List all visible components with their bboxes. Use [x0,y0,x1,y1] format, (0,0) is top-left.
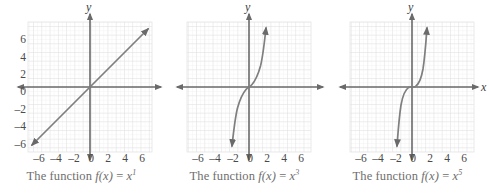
x-tick-label: –6 [355,153,367,165]
caption-fx: f(x) [95,169,113,183]
y-axis-letter-x3: y [245,0,250,15]
x-tick-label: 4 [122,153,128,165]
x-tick-label: –2 [390,153,402,165]
caption-x1: The function f(x) = x1 [0,168,163,184]
x-tick-labels-x5: –6 –4 –2 0 2 4 6 [326,153,489,169]
caption-fx: f(x) [421,169,439,183]
x-tick-label: 2 [427,153,433,165]
caption-eq: = [113,169,127,183]
x-tick-label: 2 [105,153,111,165]
y-tick-labels-x1: 6 4 2 0 –2 –4 –6 [2,22,26,152]
x-tick-label: 2 [264,153,270,165]
caption-prefix: The function [190,169,259,183]
x-tick-label: 0 [247,153,253,165]
x-tick-label: 0 [410,153,416,165]
y-tick-label: –6 [15,139,27,151]
x-tick-label: –6 [192,153,204,165]
x-tick-label: 6 [461,153,467,165]
y-tick-label: –4 [15,121,27,133]
caption-exponent: 5 [458,168,462,177]
caption-eq: = [439,169,453,183]
plot-svg-x5 [326,0,489,170]
plot-area-x3: –6 –4 –2 0 2 4 6 y [163,0,326,170]
caption-x3: The function f(x) = x3 [163,168,326,184]
graph-panel-x3: –6 –4 –2 0 2 4 6 y The function f(x) = x… [163,0,326,193]
caption-fx: f(x) [258,169,276,183]
plot-area-x5: –6 –4 –2 0 2 4 6 y x [326,0,489,170]
caption-prefix: The function [27,169,96,183]
y-tick-label: 2 [20,69,26,81]
x-tick-label: –4 [372,153,384,165]
x-tick-label: 0 [88,153,94,165]
caption-exponent: 1 [132,168,136,177]
y-tick-label: –2 [15,104,27,116]
caption-prefix: The function [353,169,422,183]
caption-exponent: 3 [295,168,299,177]
graph-panel-x1: 6 4 2 0 –2 –4 –6 –6 –4 –2 0 2 4 6 y The … [0,0,163,193]
plot-area-x1: 6 4 2 0 –2 –4 –6 –6 –4 –2 0 2 4 6 y [0,0,163,170]
y-axis-letter-x5: y [408,0,413,15]
x-tick-label: 4 [281,153,287,165]
caption-eq: = [276,169,290,183]
y-tick-label: 0 [20,86,26,98]
graph-panel-x5: –6 –4 –2 0 2 4 6 y x The function f(x) =… [326,0,489,193]
plot-svg-x3 [163,0,326,170]
x-tick-labels-x1: –6 –4 –2 0 2 4 6 [0,153,163,169]
x-tick-label: 4 [444,153,450,165]
x-tick-label: 6 [298,153,304,165]
caption-x5: The function f(x) = x5 [326,168,489,184]
x-tick-label: –6 [33,153,45,165]
x-tick-labels-x3: –6 –4 –2 0 2 4 6 [163,153,326,169]
y-axis-letter-x1: y [86,0,91,15]
x-tick-label: –4 [50,153,62,165]
x-tick-label: –2 [68,153,80,165]
x-tick-label: 6 [139,153,145,165]
x-tick-label: –2 [227,153,239,165]
x-tick-label: –4 [209,153,221,165]
x-axis-letter-x5: x [481,80,486,95]
y-tick-label: 4 [20,52,26,64]
y-tick-label: 6 [20,34,26,46]
